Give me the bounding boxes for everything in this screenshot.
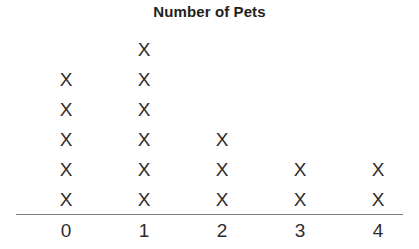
- x-mark: X: [358, 185, 398, 215]
- x-mark: X: [124, 65, 164, 95]
- x-mark: X: [358, 155, 398, 185]
- dot-column-3: X X: [280, 155, 320, 215]
- x-axis-tick-labels: 0 1 2 3 4: [0, 218, 419, 249]
- x-mark: X: [124, 35, 164, 65]
- x-mark: X: [202, 155, 242, 185]
- x-mark: X: [124, 95, 164, 125]
- dot-column-0: X X X X X: [46, 65, 86, 215]
- dot-column-2: X X X: [202, 125, 242, 215]
- x-mark: X: [202, 185, 242, 215]
- dot-column-4: X X: [358, 155, 398, 215]
- x-mark: X: [46, 185, 86, 215]
- x-axis-tick-label-0: 0: [46, 218, 86, 244]
- x-mark: X: [46, 65, 86, 95]
- x-axis-tick-label-4: 4: [358, 218, 398, 244]
- dot-plot-figure: Number of Pets X X X X X X X X X X X X X…: [0, 0, 419, 249]
- x-mark: X: [46, 155, 86, 185]
- x-mark: X: [124, 185, 164, 215]
- plot-area: X X X X X X X X X X X X X X X X X: [0, 0, 419, 215]
- x-axis-tick-label-2: 2: [202, 218, 242, 244]
- x-axis-tick-label-3: 3: [280, 218, 320, 244]
- x-axis-line: [16, 214, 403, 215]
- x-mark: X: [280, 185, 320, 215]
- x-mark: X: [280, 155, 320, 185]
- x-axis-tick-label-1: 1: [124, 218, 164, 244]
- x-mark: X: [124, 155, 164, 185]
- x-mark: X: [46, 95, 86, 125]
- x-mark: X: [124, 125, 164, 155]
- x-mark: X: [46, 125, 86, 155]
- dot-column-1: X X X X X X: [124, 35, 164, 215]
- x-mark: X: [202, 125, 242, 155]
